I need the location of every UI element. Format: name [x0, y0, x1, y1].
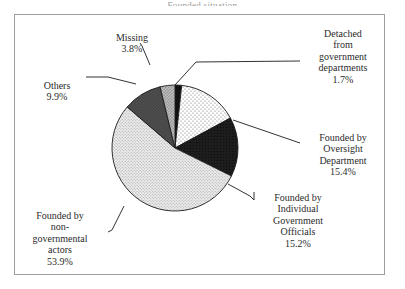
slice-label-missing-text: Missing	[116, 32, 148, 43]
slice-label-missing-pct: 3.8%	[96, 43, 168, 55]
slice-label-oversight-pct: 15.4%	[302, 166, 384, 178]
slice-label-missing: Missing 3.8%	[96, 20, 168, 66]
slice-label-nongovernmental-text: Founded by non- governmental actors	[33, 210, 88, 256]
slice-label-nongovernmental: Founded by non- governmental actors 53.9…	[10, 198, 110, 279]
slice-label-others: Others 9.9%	[26, 68, 88, 114]
slice-label-individual-officials-text: Founded by Individual Government Officia…	[273, 192, 323, 238]
pie-chart-figure: Founded situation	[0, 0, 405, 289]
slice-label-detached-text: Detached from government departments	[319, 28, 368, 74]
slice-label-individual-officials-pct: 15.2%	[252, 238, 344, 250]
leader-individual	[228, 184, 254, 200]
slice-label-others-text: Others	[44, 80, 71, 91]
slice-label-individual-officials: Founded by Individual Government Officia…	[252, 180, 344, 261]
leader-nongov	[108, 206, 124, 232]
slice-label-detached-pct: 1.7%	[302, 74, 384, 86]
slice-label-oversight-text: Founded by Oversight Department	[319, 132, 367, 166]
slice-label-detached: Detached from government departments 1.7…	[302, 16, 384, 97]
slice-label-nongovernmental-pct: 53.9%	[10, 256, 110, 268]
leader-others	[86, 77, 136, 84]
slice-label-others-pct: 9.9%	[26, 91, 88, 103]
leader-detached	[175, 61, 300, 85]
pie-slice-group	[112, 85, 238, 211]
leader-oversight	[233, 120, 300, 143]
